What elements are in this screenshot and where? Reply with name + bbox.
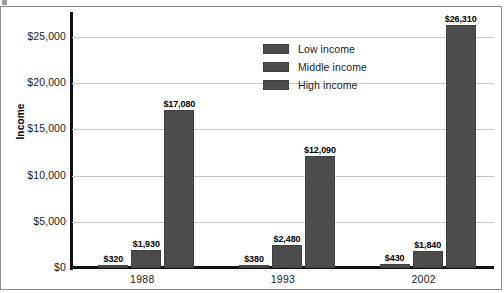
legend-swatch-icon [263, 44, 289, 54]
x-tick-label: 1993 [213, 273, 354, 285]
bar-value-label: $320 [104, 254, 124, 264]
bar[interactable]: $2,480 [272, 245, 302, 268]
bar-value-label: $380 [244, 254, 264, 264]
bar-value-label: $1,840 [414, 240, 441, 250]
y-tick-label: $20,000 [2, 76, 66, 88]
y-tick-label: $15,000 [2, 122, 66, 134]
legend-label: Low income [298, 43, 355, 55]
legend-swatch-icon [263, 80, 289, 90]
bar-value-label: $26,310 [445, 14, 477, 24]
x-tick-label: 2002 [353, 273, 494, 285]
bar[interactable]: $1,930 [131, 250, 161, 268]
bar-value-label: $12,090 [304, 145, 336, 155]
bar[interactable]: $12,090 [305, 156, 335, 268]
bar[interactable]: $430 [380, 264, 410, 268]
y-tick-label: $25,000 [2, 30, 66, 42]
legend-label: High income [298, 79, 357, 91]
bar-value-label: $2,480 [274, 234, 301, 244]
bar-value-label: $1,930 [133, 239, 160, 249]
legend-item[interactable]: Low income [263, 41, 367, 57]
legend-label: Middle income [298, 61, 367, 73]
bar[interactable]: $17,080 [164, 110, 194, 268]
bar-group: $430$1,840$26,310 [353, 14, 494, 268]
y-tick-label-group: $25,000$20,000$15,000$10,000$5,000$0 [0, 14, 66, 268]
legend-swatch-icon [263, 62, 289, 72]
bar-value-label: $430 [385, 253, 405, 263]
x-tick-label: 1988 [72, 273, 213, 285]
bar[interactable]: $380 [239, 265, 269, 269]
scan-artifact [2, 0, 7, 5]
legend-item[interactable]: Middle income [263, 59, 367, 75]
bar-value-label: $17,080 [163, 99, 195, 109]
bar[interactable]: $320 [98, 265, 128, 268]
bar[interactable]: $26,310 [446, 25, 476, 268]
bar[interactable]: $1,840 [413, 251, 443, 268]
y-tick-label: $5,000 [2, 215, 66, 227]
bar-chart-figure: Income $25,000$20,000$15,000$10,000$5,00… [0, 0, 504, 293]
y-tick-label: $0 [2, 261, 66, 273]
chart-legend: Low incomeMiddle incomeHigh income [263, 41, 367, 95]
legend-item[interactable]: High income [263, 77, 367, 93]
y-tick-label: $10,000 [2, 169, 66, 181]
bar-group: $320$1,930$17,080 [72, 14, 213, 268]
